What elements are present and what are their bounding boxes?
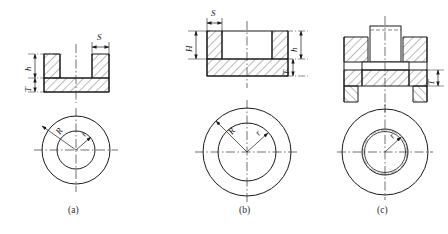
section-left-wall xyxy=(207,31,222,59)
lower-leg-right xyxy=(413,86,427,102)
dim-label-S-a: S xyxy=(97,32,102,42)
technical-drawing-figure: S h T R r (a) xyxy=(0,0,448,234)
plate-left xyxy=(344,70,362,86)
boss-flange xyxy=(362,62,409,70)
central-boss xyxy=(370,26,401,62)
caption-c: (c) xyxy=(377,205,388,216)
dim-label-H-b: H xyxy=(184,45,194,53)
housing-upper-right xyxy=(403,37,427,62)
plate-middle xyxy=(362,70,409,86)
lower-leg-left xyxy=(344,86,358,102)
drawing-canvas: S h T R r (a) xyxy=(0,0,448,234)
section-right-wall xyxy=(272,31,288,59)
caption-a: (a) xyxy=(68,205,79,216)
caption-b: (b) xyxy=(239,205,250,216)
section-base xyxy=(44,78,109,92)
dim-label-S-b: S xyxy=(211,8,216,18)
housing-upper-left xyxy=(344,37,368,62)
section-left-wall xyxy=(44,54,60,78)
plate-right xyxy=(409,70,427,86)
section-base xyxy=(207,59,288,76)
dim-label-h-a: h xyxy=(23,66,33,71)
section-right-wall xyxy=(92,54,109,78)
dim-label-h-b: h xyxy=(289,47,299,52)
